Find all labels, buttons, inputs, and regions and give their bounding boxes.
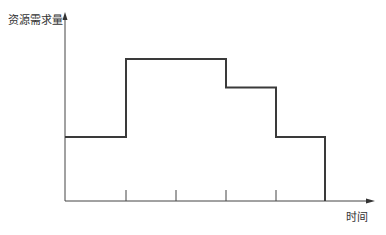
y-axis-label: 资源需求量	[8, 15, 63, 26]
x-ticks	[126, 190, 276, 201]
x-axis-label: 时间	[346, 212, 368, 223]
y-axis-arrow-icon	[63, 12, 68, 20]
step-chart	[0, 0, 386, 235]
resource-demand-step-line	[65, 59, 325, 201]
x-axis-arrow-icon	[366, 199, 375, 204]
